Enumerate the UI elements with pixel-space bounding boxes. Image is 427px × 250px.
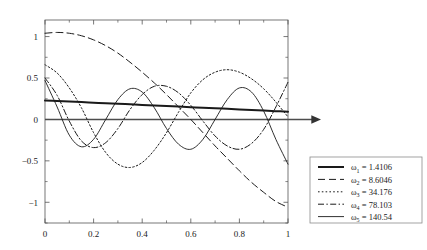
eigenmode-chart: 00.20.40.60.81 10.50−0.5−1 ω1 = 1.4106ω2… (0, 0, 427, 250)
x-tick-label: 0.6 (185, 229, 197, 239)
y-tick-label: 1 (34, 32, 39, 42)
y-tick-label: −0.5 (22, 156, 39, 166)
legend: ω1 = 1.4106ω2 = 8.6046ω3 = 34.176ω4 = 78… (310, 157, 422, 223)
y-tick-label: 0 (34, 115, 39, 125)
x-tick-label: 0.8 (234, 229, 246, 239)
x-tick-label: 1 (286, 229, 291, 239)
y-tick-label: −1 (28, 198, 38, 208)
x-tick-label: 0 (43, 229, 48, 239)
x-tick-label: 0.2 (88, 229, 99, 239)
y-tick-label: 0.5 (27, 73, 39, 83)
x-tick-label: 0.4 (137, 229, 149, 239)
